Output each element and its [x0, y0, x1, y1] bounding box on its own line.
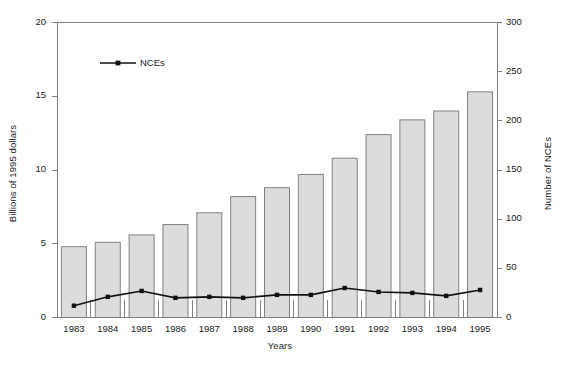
chart-figure: Billions of 1995 dollars Number of NCEs … [0, 0, 570, 366]
x-axis-label: Years [200, 340, 360, 351]
bar-series [61, 92, 492, 318]
bar [400, 120, 425, 318]
y-tick-label-right: 50 [506, 261, 532, 272]
x-tick-label: 1993 [395, 323, 429, 334]
y-tick-label-left: 0 [24, 311, 46, 322]
y-axis-label-right: Number of NCEs [542, 99, 553, 249]
chart-canvas [0, 0, 570, 366]
y-tick-label-left: 15 [24, 89, 46, 100]
x-tick-label: 1983 [57, 323, 91, 334]
bar [265, 188, 290, 318]
y-axis-ticks-right [497, 23, 502, 318]
line-marker [241, 296, 245, 300]
line-marker [342, 286, 346, 290]
x-tick-label: 1990 [294, 323, 328, 334]
line-marker [444, 294, 448, 298]
line-marker [139, 289, 143, 293]
line-marker [410, 291, 414, 295]
bar [434, 111, 459, 318]
y-tick-label-right: 250 [506, 65, 532, 76]
line-marker [376, 290, 380, 294]
x-tick-label: 1995 [463, 323, 497, 334]
bar [163, 225, 188, 318]
y-tick-label-right: 300 [506, 16, 532, 27]
x-tick-label: 1986 [158, 323, 192, 334]
bar [95, 242, 120, 317]
line-marker [72, 304, 76, 308]
line-marker [207, 295, 211, 299]
line-marker [478, 288, 482, 292]
x-tick-label: 1994 [429, 323, 463, 334]
y-tick-label-left: 10 [24, 163, 46, 174]
y-tick-label-right: 200 [506, 114, 532, 125]
y-axis-ticks-left [52, 23, 57, 318]
x-tick-label: 1985 [125, 323, 159, 334]
y-tick-label-right: 100 [506, 212, 532, 223]
bar [197, 213, 222, 318]
y-tick-label-right: 0 [506, 311, 532, 322]
bar [332, 158, 357, 317]
x-tick-label: 1984 [91, 323, 125, 334]
line-marker [173, 296, 177, 300]
legend-entry-nces-label: NCEs [140, 57, 165, 68]
bar [468, 92, 493, 318]
x-tick-label: 1988 [226, 323, 260, 334]
line-marker [309, 293, 313, 297]
x-tick-label: 1991 [328, 323, 362, 334]
x-tick-label: 1989 [260, 323, 294, 334]
line-marker [106, 295, 110, 299]
bar [129, 235, 154, 318]
y-tick-label-left: 5 [24, 237, 46, 248]
x-tick-label: 1987 [192, 323, 226, 334]
y-tick-label-right: 150 [506, 163, 532, 174]
y-tick-label-left: 20 [24, 16, 46, 27]
x-tick-label: 1992 [362, 323, 396, 334]
legend-entry-nces-marker [100, 61, 136, 66]
y-axis-label-left: Billions of 1995 dollars [7, 99, 18, 249]
line-marker [275, 293, 279, 297]
